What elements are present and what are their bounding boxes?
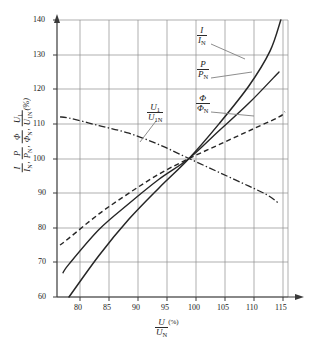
x-axis-title: U UN (%) [155, 318, 179, 337]
curve-label-current-den: IN [197, 36, 207, 45]
y-tick-80: 80 [38, 223, 46, 232]
y-title-u-den: U1N [22, 111, 31, 127]
x-tick-85: 85 [103, 303, 111, 312]
y-tick-140: 140 [33, 15, 45, 24]
chart-plot-svg [0, 0, 311, 348]
x-tick-90: 90 [132, 303, 140, 312]
y-title-phi-den: ΦN [22, 130, 31, 143]
x-axis-arrow [295, 294, 304, 300]
curve-label-power: P PN [197, 60, 209, 79]
x-tick-110: 110 [246, 303, 258, 312]
y-axis-title: IIN, PPN, ΦΦN, U1U1N(%) [13, 87, 32, 183]
curve-label-voltage: U1 U1N [147, 103, 163, 122]
y-axis-arrow [54, 14, 60, 23]
y-tick-60: 60 [38, 292, 46, 301]
curve-label-flux: Φ ΦN [196, 94, 210, 113]
y-tick-70: 70 [38, 257, 46, 266]
x-tick-100: 100 [188, 303, 200, 312]
y-tick-120: 120 [33, 84, 45, 93]
curve-label-power-den: PN [197, 70, 209, 79]
x-tick-80: 80 [74, 303, 82, 312]
x-tick-105: 105 [217, 303, 229, 312]
y-tick-100: 100 [33, 154, 45, 163]
y-axis-title-unit: (%) [21, 98, 31, 111]
x-tick-95: 95 [161, 303, 169, 312]
curve-label-current: I IN [197, 26, 207, 45]
chart-figure: 140 130 120 110 100 90 80 70 60 80 85 90… [0, 0, 311, 348]
y-tick-90: 90 [38, 188, 46, 197]
curve-label-voltage-den: U1N [147, 113, 163, 122]
plot-background [57, 20, 288, 297]
curve-label-flux-den: ΦN [196, 104, 210, 113]
x-axis-title-denominator: UN [155, 328, 168, 337]
y-title-p-den: PN [22, 148, 31, 160]
y-tick-130: 130 [33, 50, 45, 59]
x-axis-title-unit: (%) [168, 318, 179, 326]
y-title-i-den: IN [22, 163, 31, 172]
y-tick-110: 110 [33, 119, 45, 128]
x-tick-115: 115 [275, 303, 287, 312]
